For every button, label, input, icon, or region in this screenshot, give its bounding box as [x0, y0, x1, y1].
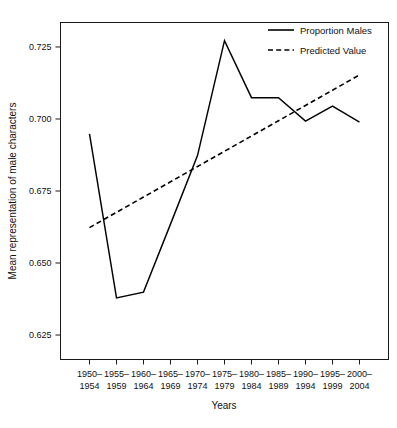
predicted-value-line	[90, 75, 360, 228]
x-axis-title: Years	[211, 400, 236, 411]
x-tick-label: 1959	[106, 381, 126, 391]
x-tick-label: 1994	[295, 381, 315, 391]
x-tick-label: 1974	[187, 381, 207, 391]
y-axis-ticks: 0.6250.6500.6750.7000.725	[29, 42, 61, 340]
y-tick-label: 0.675	[29, 186, 52, 196]
x-tick-label: 1975–	[212, 369, 237, 379]
x-tick-label: 1989	[268, 381, 288, 391]
x-tick-label: 1965–	[158, 369, 183, 379]
y-tick-label: 0.725	[29, 42, 52, 52]
legend-label-predicted-value: Predicted Value	[300, 45, 366, 56]
x-tick-label: 1999	[322, 381, 342, 391]
x-tick-label: 1985–	[266, 369, 291, 379]
legend-label-proportion-males: Proportion Males	[300, 25, 372, 36]
chart-figure: 0.6250.6500.6750.7000.725 1950–19541955–…	[0, 0, 397, 428]
y-tick-label: 0.625	[29, 330, 52, 340]
plot-area-border	[61, 23, 389, 360]
x-tick-label: 1980–	[239, 369, 264, 379]
x-tick-label: 1954	[79, 381, 99, 391]
x-tick-label: 1970–	[185, 369, 210, 379]
chart-legend: Proportion Males Predicted Value	[268, 25, 372, 56]
y-tick-label: 0.650	[29, 258, 52, 268]
x-tick-label: 1984	[241, 381, 261, 391]
x-tick-label: 1979	[214, 381, 234, 391]
x-tick-label: 1950–	[77, 369, 102, 379]
x-tick-label: 1995–	[320, 369, 345, 379]
line-chart: 0.6250.6500.6750.7000.725 1950–19541955–…	[0, 0, 397, 428]
x-tick-label: 2004	[349, 381, 369, 391]
x-tick-label: 1964	[133, 381, 153, 391]
x-tick-label: 1955–	[104, 369, 129, 379]
x-tick-label: 1990–	[293, 369, 318, 379]
x-tick-label: 2000–	[347, 369, 372, 379]
y-tick-label: 0.700	[29, 114, 52, 124]
proportion-males-line	[90, 41, 360, 298]
x-tick-label: 1969	[160, 381, 180, 391]
x-axis-ticks: 1950–19541955–19591960–19641965–19691970…	[77, 360, 372, 391]
y-axis-title: Mean representation of male characters	[7, 103, 18, 280]
x-tick-label: 1960–	[131, 369, 156, 379]
